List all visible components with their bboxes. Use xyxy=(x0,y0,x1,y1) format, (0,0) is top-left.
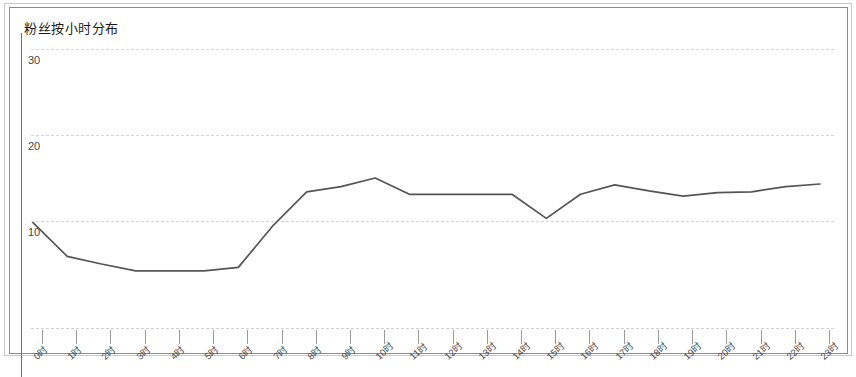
line-series-path xyxy=(33,178,820,271)
